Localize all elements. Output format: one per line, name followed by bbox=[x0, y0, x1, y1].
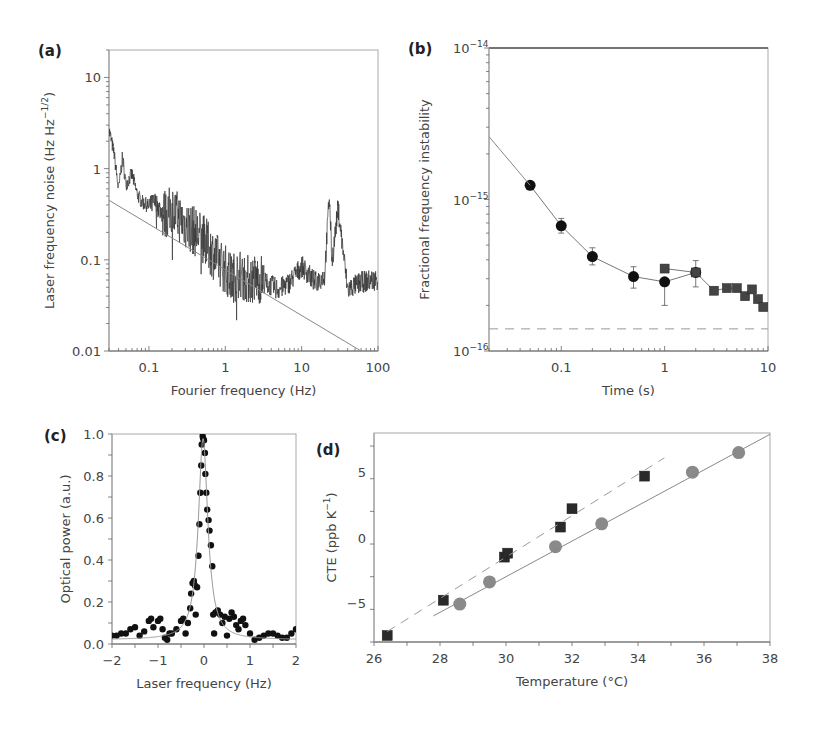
data-point-circle bbox=[150, 624, 156, 630]
y-tick-label: 0.6 bbox=[83, 511, 104, 526]
data-point-circle bbox=[242, 622, 248, 628]
panel-c: (c)−2−10120.00.20.40.60.81.0Laser freque… bbox=[44, 427, 300, 691]
data-point-circle bbox=[193, 611, 199, 617]
x-tick-label: 28 bbox=[432, 651, 449, 666]
data-point-circle bbox=[293, 626, 299, 632]
y-tick-label: 0 bbox=[358, 531, 366, 546]
y-tick-label: 0.4 bbox=[83, 553, 104, 568]
x-tick-label: 1 bbox=[221, 360, 229, 375]
x-tick-label: 30 bbox=[498, 651, 515, 666]
data-point-circle bbox=[206, 527, 212, 533]
x-tick-label: 10 bbox=[293, 360, 310, 375]
x-tick-label: 0.1 bbox=[139, 360, 160, 375]
data-point-circle bbox=[164, 637, 170, 643]
data-point-square bbox=[691, 268, 700, 277]
data-point-circle bbox=[196, 521, 202, 527]
series-lorentzian-fit bbox=[112, 439, 296, 639]
ticks bbox=[104, 50, 378, 351]
y-tick-label: 0.01 bbox=[72, 344, 101, 359]
tick-labels: 26283032343638−505 bbox=[347, 465, 778, 666]
series-circles-linear-fit bbox=[433, 434, 770, 616]
series-circles bbox=[525, 180, 702, 306]
x-tick-label: 1 bbox=[246, 653, 254, 668]
data-point-circle bbox=[197, 490, 203, 496]
x-tick-label: 34 bbox=[630, 651, 647, 666]
x-tick-label: 36 bbox=[696, 651, 713, 666]
data-point-circle bbox=[556, 220, 567, 231]
y-tick-label: 0.1 bbox=[80, 253, 101, 268]
figure-canvas: (a)0.11101000.010.1110Fourier frequency … bbox=[0, 0, 814, 732]
data-point-circle bbox=[595, 517, 608, 530]
x-tick-label: 2 bbox=[292, 653, 300, 668]
plot-frame bbox=[489, 48, 768, 351]
fit-line bbox=[109, 200, 361, 351]
tick-labels: 0.11101000.010.1110 bbox=[72, 70, 390, 375]
data-point-square bbox=[753, 295, 762, 304]
data-point-square bbox=[709, 286, 718, 295]
data-point-circle bbox=[240, 616, 246, 622]
data-point-square bbox=[382, 630, 392, 640]
x-axis-label: Time (s) bbox=[601, 383, 655, 398]
x-tick-label: −1 bbox=[148, 653, 167, 668]
y-axis-label: CTE (ppb K−1) bbox=[322, 492, 339, 582]
series-fit-line-start- bbox=[489, 137, 530, 186]
y-axis-label: Optical power (a.u.) bbox=[58, 475, 73, 604]
y-tick-label: 0.2 bbox=[83, 595, 104, 610]
x-tick-label: 0 bbox=[200, 653, 208, 668]
tick-labels: 0.111010−1610−1510−14 bbox=[453, 39, 776, 375]
series-thermal-noise-limit-fit- bbox=[109, 200, 361, 351]
data-point-circle bbox=[148, 616, 154, 622]
data-point-square bbox=[747, 285, 756, 294]
y-tick-label: 10−14 bbox=[453, 39, 489, 56]
y-tick-label: 1.0 bbox=[83, 427, 104, 442]
data-point-square bbox=[660, 264, 669, 273]
fit-line bbox=[489, 137, 530, 186]
panel-d: (d)26283032343638−505Temperature (°C)CTE… bbox=[316, 433, 778, 689]
data-point-circle bbox=[205, 517, 211, 523]
fit-line bbox=[433, 434, 770, 616]
data-point-circle bbox=[247, 630, 253, 636]
ticks bbox=[370, 446, 770, 646]
data-point-circle bbox=[235, 626, 241, 632]
plot-area bbox=[109, 129, 378, 351]
data-point-circle bbox=[231, 614, 237, 620]
data-point-square bbox=[503, 548, 513, 558]
data-point-circle bbox=[628, 271, 639, 282]
y-axis-label: Laser frequency noise (Hz Hz−1/2) bbox=[40, 92, 57, 309]
x-axis-label: Fourier frequency (Hz) bbox=[171, 383, 317, 398]
plot-area bbox=[382, 434, 770, 640]
x-tick-label: 26 bbox=[366, 651, 383, 666]
panel-a: (a)0.11101000.010.1110Fourier frequency … bbox=[38, 42, 390, 398]
y-tick-label: 10−15 bbox=[453, 191, 489, 208]
connecting-line bbox=[530, 185, 696, 282]
data-point-square bbox=[732, 284, 741, 293]
data-point-circle bbox=[732, 446, 745, 459]
data-point-circle bbox=[224, 632, 230, 638]
data-point-circle bbox=[549, 540, 562, 553]
y-tick-label: −5 bbox=[347, 596, 366, 611]
plot-area bbox=[489, 137, 768, 329]
x-tick-label: 0.1 bbox=[551, 360, 572, 375]
data-point-circle bbox=[194, 584, 200, 590]
data-point-circle bbox=[587, 251, 598, 262]
y-axis-label: Fractional frequency instability bbox=[417, 99, 432, 300]
data-point-circle bbox=[659, 276, 670, 287]
data-point-circle bbox=[157, 616, 163, 622]
series-squares bbox=[382, 471, 649, 640]
y-tick-label: 10 bbox=[84, 70, 101, 85]
x-tick-label: −2 bbox=[102, 653, 121, 668]
plot-frame bbox=[109, 50, 378, 351]
data-point-circle bbox=[483, 575, 496, 588]
lorentzian-fit bbox=[112, 439, 296, 639]
data-point-circle bbox=[182, 630, 188, 636]
series-squares bbox=[660, 264, 768, 311]
y-tick-label: 0.0 bbox=[83, 637, 104, 652]
x-axis-label: Laser frequency (Hz) bbox=[136, 676, 272, 691]
plot-area bbox=[109, 433, 299, 643]
data-point-square bbox=[567, 504, 577, 514]
data-point-circle bbox=[211, 630, 217, 636]
y-tick-label: 5 bbox=[358, 465, 366, 480]
x-tick-label: 32 bbox=[564, 651, 581, 666]
panel-label: (c) bbox=[44, 427, 67, 445]
data-point-circle bbox=[686, 466, 699, 479]
